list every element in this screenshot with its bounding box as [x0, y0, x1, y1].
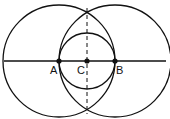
point-b: [112, 58, 117, 63]
geometry-diagram: A C B: [0, 0, 170, 119]
label-b: B: [116, 64, 123, 76]
point-c: [84, 58, 89, 63]
point-a: [56, 58, 61, 63]
label-c: C: [77, 64, 85, 76]
label-a: A: [50, 64, 58, 76]
